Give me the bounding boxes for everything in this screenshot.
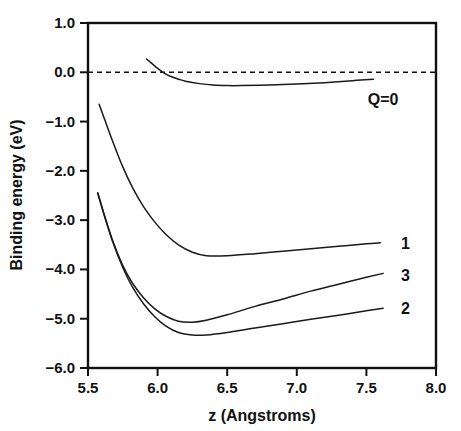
x-axis-title: z (Angstroms)	[208, 407, 316, 424]
x-axis-ticks	[88, 368, 436, 376]
y-tick-label: −2.0	[45, 162, 75, 179]
y-tick-label: −1.0	[45, 113, 75, 130]
y-axis-title: Binding energy (eV)	[8, 119, 25, 270]
x-tick-label: 8.0	[426, 379, 447, 396]
y-tick-label: −4.0	[45, 260, 75, 277]
x-tick-label: 6.0	[147, 379, 168, 396]
chart-svg: 5.56.06.57.07.58.0 1.00.0−1.0−2.0−3.0−4.…	[0, 0, 461, 431]
x-tick-label: 7.0	[286, 379, 307, 396]
curve-label-q-0: Q=0	[368, 91, 399, 108]
curve-1	[99, 104, 380, 256]
y-tick-label: 0.0	[54, 63, 75, 80]
y-tick-label: −3.0	[45, 211, 75, 228]
y-axis-tick-labels: 1.00.0−1.0−2.0−3.0−4.0−5.0−6.0	[45, 14, 75, 376]
x-tick-label: 6.5	[217, 379, 238, 396]
y-tick-label: −6.0	[45, 359, 75, 376]
y-tick-label: −5.0	[45, 310, 75, 327]
curve-annotations: Q=0132	[368, 91, 410, 316]
curve-2	[98, 193, 383, 335]
binding-energy-chart: 5.56.06.57.07.58.0 1.00.0−1.0−2.0−3.0−4.…	[0, 0, 461, 431]
curve-3	[98, 193, 383, 322]
curve-label-2: 2	[401, 300, 410, 317]
y-tick-label: 1.0	[54, 14, 75, 31]
curve-label-1: 1	[401, 235, 410, 252]
data-curves	[98, 59, 383, 335]
x-axis-tick-labels: 5.56.06.57.07.58.0	[78, 379, 447, 396]
curve-label-3: 3	[401, 267, 410, 284]
x-tick-label: 5.5	[78, 379, 99, 396]
x-tick-label: 7.5	[356, 379, 377, 396]
plot-frame	[88, 23, 436, 368]
